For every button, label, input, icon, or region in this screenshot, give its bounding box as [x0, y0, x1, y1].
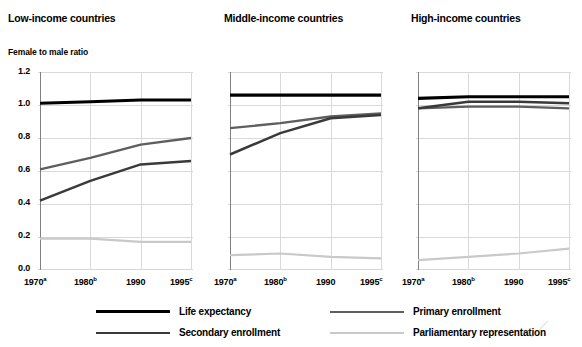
x-tick-low-1970: 1970a	[24, 276, 46, 287]
y-tick-0-6: 0.6	[6, 164, 30, 174]
x-tick-low-1980: 1980b	[74, 276, 97, 287]
x-tick-high-1995: 1995c	[548, 276, 570, 287]
legend-swatch-parliamentary-representation	[330, 332, 404, 334]
panel-title-high-income: High-income countries	[411, 12, 521, 24]
legend-item-life-expectancy: Life expectancy	[96, 306, 251, 317]
legend-label-primary-enrollment: Primary enrollment	[413, 306, 501, 317]
x-tick-high-1990: 1990	[504, 276, 523, 287]
legend-label-life-expectancy: Life expectancy	[179, 306, 251, 317]
y-tick-1-2: 1.2	[6, 66, 30, 76]
y-tick-0-4: 0.4	[6, 197, 30, 207]
check-mark-icon	[524, 320, 550, 340]
chart-panel-high-income	[416, 72, 571, 270]
y-axis-title: Female to male ratio	[8, 47, 88, 57]
y-tick-1-0: 1.0	[6, 98, 30, 108]
chart-panel-low-income	[38, 72, 193, 270]
x-tick-low-1995: 1995c	[170, 276, 192, 287]
panel-title-low-income: Low-income countries	[8, 12, 115, 24]
legend-item-secondary-enrollment: Secondary enrollment	[96, 327, 280, 338]
x-tick-middle-1995: 1995c	[360, 276, 382, 287]
panel-title-middle-income: Middle-income countries	[224, 12, 343, 24]
chart-panel-middle-income	[228, 72, 383, 270]
y-tick-0-0: 0.0	[6, 263, 30, 273]
x-tick-high-1980: 1980b	[452, 276, 475, 287]
legend-label-secondary-enrollment: Secondary enrollment	[179, 327, 280, 338]
legend-swatch-secondary-enrollment	[96, 332, 170, 334]
x-tick-middle-1970: 1970a	[214, 276, 236, 287]
legend-swatch-life-expectancy	[96, 310, 170, 313]
x-tick-high-1970: 1970a	[402, 276, 424, 287]
legend-item-parliamentary-representation: Parliamentary representation	[330, 327, 546, 338]
legend-swatch-primary-enrollment	[330, 311, 404, 313]
x-tick-middle-1990: 1990	[316, 276, 335, 287]
x-tick-low-1990: 1990	[126, 276, 145, 287]
x-tick-middle-1980: 1980b	[264, 276, 287, 287]
y-tick-0-8: 0.8	[6, 131, 30, 141]
y-tick-0-2: 0.2	[6, 230, 30, 240]
legend-item-primary-enrollment: Primary enrollment	[330, 306, 501, 317]
